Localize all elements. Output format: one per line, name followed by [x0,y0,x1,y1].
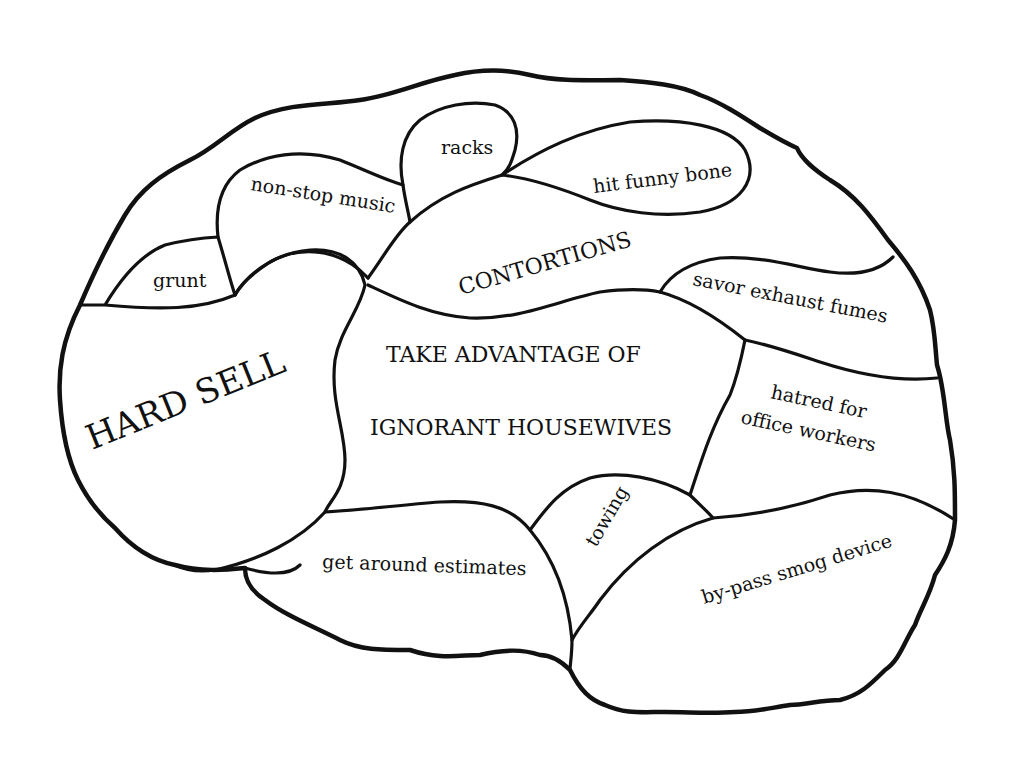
brain-diagram: grunt non-stop music racks hit funny bon… [0,0,1009,759]
label-savor-exhaust-fumes: savor exhaust fumes [691,267,889,326]
label-take-advantage-line1: TAKE ADVANTAGE OF [386,342,641,367]
label-hard-sell: HARD SELL [80,341,291,457]
label-contortions: CONTORTIONS [455,227,634,300]
label-take-advantage-line2: IGNORANT HOUSEWIVES [370,415,672,440]
label-hit-funny-bone: hit funny bone [592,158,733,197]
label-racks: racks [441,136,493,158]
region-non-stop-music-border [217,154,410,278]
label-by-pass-smog-device: by-pass smog device [699,529,895,608]
brain-svg: grunt non-stop music racks hit funny bon… [0,0,1009,759]
region-hatred-border [713,490,955,520]
region-savor-lower-border [745,340,937,379]
region-get-around-border [245,565,300,573]
label-non-stop-music: non-stop music [249,172,397,217]
region-racks-border [401,103,517,222]
label-towing: towing [580,482,632,550]
region-contortions-lower-border [368,285,745,340]
label-get-around-estimates: get around estimates [322,550,527,579]
label-grunt: grunt [153,269,207,291]
region-get-around-right-border [530,530,572,670]
